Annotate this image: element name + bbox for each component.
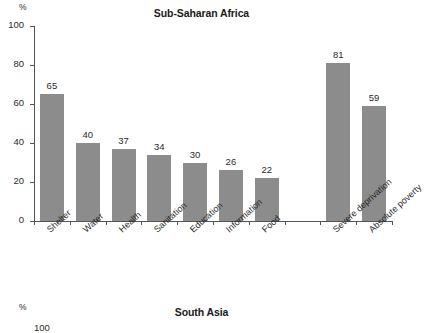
x-axis-tick xyxy=(213,221,214,225)
x-axis-tick xyxy=(285,221,286,225)
x-axis-tick xyxy=(249,221,250,225)
bar-value-label: 26 xyxy=(211,156,251,167)
bar-value-label: 81 xyxy=(318,49,358,60)
y-axis-tick-label-south-asia: 100 xyxy=(34,322,50,333)
y-axis-tick: 20 xyxy=(30,182,35,183)
x-axis-tick xyxy=(392,221,393,225)
x-axis-tick xyxy=(356,221,357,225)
y-axis-tick-label: 40 xyxy=(13,136,24,147)
y-axis-tick: 80 xyxy=(30,65,35,66)
y-axis-line xyxy=(34,26,35,221)
bar-value-label: 37 xyxy=(104,135,144,146)
x-axis-tick xyxy=(70,221,71,225)
x-axis-tick xyxy=(320,221,321,225)
bar-value-label: 40 xyxy=(68,129,108,140)
x-axis-tick xyxy=(141,221,142,225)
y-axis-tick-label: 0 xyxy=(19,214,24,225)
x-axis-tick xyxy=(34,221,35,225)
y-axis-tick: 40 xyxy=(30,143,35,144)
y-axis-tick-label: 100 xyxy=(8,19,24,30)
y-axis-tick-label: 60 xyxy=(13,97,24,108)
bar xyxy=(326,63,350,221)
chart-panel-south-asia: % South Asia 100 xyxy=(0,300,403,328)
chart-panel-sub-saharan-africa: % Sub-Saharan Africa 100806040200 654037… xyxy=(0,0,403,300)
bar xyxy=(112,149,136,221)
bar-value-label: 34 xyxy=(139,141,179,152)
chart-title: Sub-Saharan Africa xyxy=(0,7,403,19)
bar xyxy=(40,94,64,221)
bar-value-label: 59 xyxy=(354,92,394,103)
x-axis-tick xyxy=(106,221,107,225)
y-axis-tick: 100 xyxy=(30,26,35,27)
plot-area: 100806040200 654037343026228159 xyxy=(34,26,392,221)
bar-value-label: 30 xyxy=(175,149,215,160)
y-axis-tick-label: 80 xyxy=(13,58,24,69)
y-axis-tick: 60 xyxy=(30,104,35,105)
x-axis-tick xyxy=(177,221,178,225)
bar-value-label: 22 xyxy=(247,164,287,175)
y-axis-tick-label: 20 xyxy=(13,175,24,186)
bar-value-label: 65 xyxy=(32,80,72,91)
chart-title-south-asia: South Asia xyxy=(0,306,403,318)
bar xyxy=(76,143,100,221)
